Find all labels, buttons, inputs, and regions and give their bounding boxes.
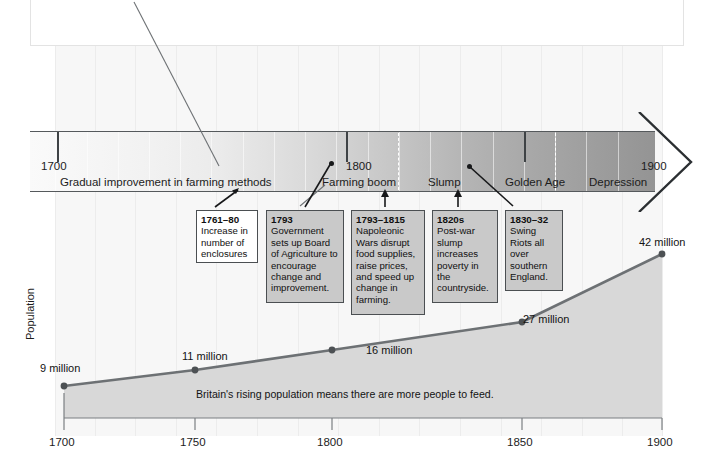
xtick-1800: 1800 bbox=[317, 436, 343, 448]
data-label-1900: 42 million bbox=[639, 236, 685, 248]
chart-caption: Britain's rising population means there … bbox=[196, 388, 494, 400]
xtick-1850: 1850 bbox=[507, 436, 533, 448]
data-label-1800: 16 million bbox=[366, 344, 412, 356]
data-label-1750: 11 million bbox=[182, 350, 228, 362]
xtick-1900: 1900 bbox=[647, 436, 673, 448]
data-label-1700: 9 million bbox=[40, 362, 80, 374]
y-axis-label: Population bbox=[24, 288, 36, 340]
xtick-1750: 1750 bbox=[180, 436, 206, 448]
xtick-1700: 1700 bbox=[49, 436, 75, 448]
data-label-1850: 27 million bbox=[523, 313, 569, 325]
